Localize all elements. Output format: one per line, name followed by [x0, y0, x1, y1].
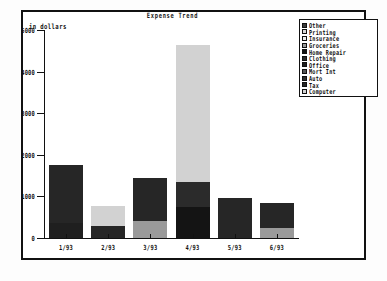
bar-segment-computer: [91, 206, 125, 226]
x-axis-line: [37, 238, 299, 239]
legend-swatch: [302, 69, 307, 74]
bar-4-93: [176, 45, 210, 238]
bar-6-93: [260, 203, 294, 238]
y-tick-mark: [37, 196, 44, 197]
y-tick-label: 1000: [21, 192, 35, 200]
y-tick-mark: [37, 113, 44, 114]
bar-segment-tax: [133, 178, 167, 220]
legend-swatch: [302, 49, 307, 54]
x-tick-label: 2/93: [85, 243, 131, 251]
legend-swatch: [302, 82, 307, 87]
x-tick-label: 6/93: [254, 243, 300, 251]
x-tick-mark: [108, 234, 109, 238]
legend-swatch: [302, 76, 307, 81]
y-tick-label: 2000: [21, 151, 35, 159]
x-tick-label: 3/93: [127, 243, 173, 251]
plot-area: [44, 30, 297, 238]
chart-title: Expense Trend: [0, 11, 345, 19]
bar-segment-tax: [260, 203, 294, 228]
bar-3-93: [133, 178, 167, 238]
y-tick-label: 5000: [21, 26, 35, 34]
x-tick-mark: [193, 234, 194, 238]
legend-swatch: [302, 29, 307, 34]
legend-swatch: [302, 62, 307, 67]
chart-legend: OtherPrintingInsuranceGroceriesHome Repa…: [299, 19, 378, 97]
x-tick-label: 5/93: [212, 243, 258, 251]
x-tick-mark: [235, 234, 236, 238]
legend-swatch: [302, 36, 307, 41]
x-tick-mark: [150, 234, 151, 238]
legend-swatch: [302, 56, 307, 61]
x-tick-label: 1/93: [43, 243, 89, 251]
bar-1-93: [49, 165, 83, 238]
legend-item-computer: Computer: [302, 88, 375, 95]
y-tick-mark: [37, 238, 44, 239]
x-tick-label: 4/93: [170, 243, 216, 251]
chart-window: Expense Trend in dollars 500040003000200…: [0, 0, 387, 281]
legend-label: Computer: [309, 87, 336, 95]
y-tick-mark: [37, 72, 44, 73]
x-tick-mark: [277, 234, 278, 238]
y-tick-label: 0: [32, 234, 35, 242]
bar-segment-tax: [49, 165, 83, 223]
bar-segment-computer: [176, 45, 210, 182]
legend-swatch: [302, 43, 307, 48]
y-tick-label: 3000: [21, 109, 35, 117]
y-tick-mark: [37, 30, 44, 31]
bar-5-93: [218, 198, 252, 238]
y-tick-label: 4000: [21, 68, 35, 76]
legend-swatch: [302, 89, 307, 94]
x-tick-mark: [66, 234, 67, 238]
y-tick-mark: [37, 155, 44, 156]
bar-segment-clothing: [176, 182, 210, 207]
bar-segment-tax: [218, 198, 252, 238]
legend-swatch: [302, 23, 307, 28]
